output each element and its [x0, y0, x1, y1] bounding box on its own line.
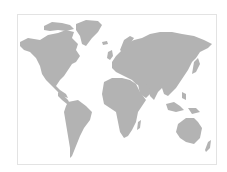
philippines [182, 92, 186, 100]
arctic-islands [44, 22, 74, 31]
new-guinea [188, 108, 200, 114]
australia [176, 118, 202, 144]
indonesia [166, 102, 184, 112]
iceland [102, 41, 108, 45]
united-kingdom [107, 50, 113, 60]
world-map [0, 0, 227, 172]
greenland [76, 20, 102, 46]
new-zealand [205, 140, 211, 152]
south-america [64, 100, 92, 158]
madagascar [137, 120, 141, 130]
north-america [20, 30, 80, 98]
